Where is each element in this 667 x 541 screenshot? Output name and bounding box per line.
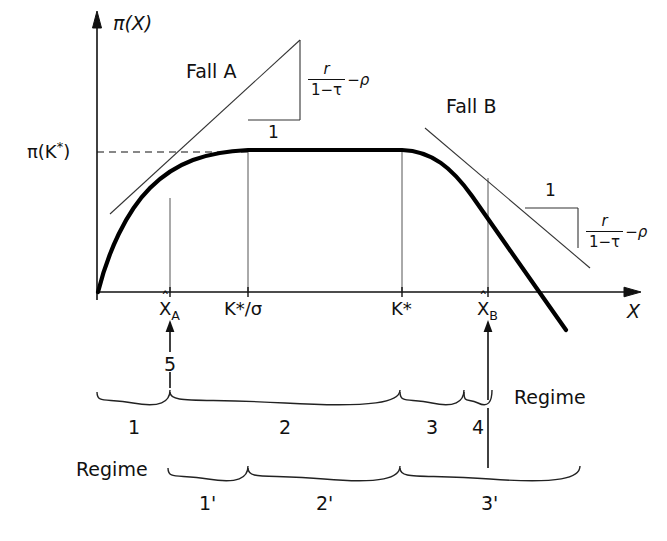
tick-label-x-hat-b: ˆXB: [477, 300, 498, 322]
lower-regime-title: Regime: [76, 460, 148, 479]
tick-label-x-hat-b-sub: B: [489, 308, 498, 323]
lower-regime-label-2-prime: 2': [316, 494, 333, 513]
tick-label-k-star-sigma: K*/σ: [224, 300, 262, 318]
tick-label-x-hat-a-glyph: ˆX: [159, 300, 171, 318]
brace-regime-3-prime: [400, 466, 580, 481]
slope-left-expression: r 1−τ −ρ: [308, 60, 369, 99]
hat-accent-icon: ˆ: [161, 291, 170, 308]
tick-label-x-hat-b-glyph: ˆX: [477, 300, 489, 318]
brace-regime-2: [170, 390, 400, 405]
lower-regime-braces: [168, 466, 580, 481]
slope-right-fraction: r 1−τ: [586, 212, 623, 251]
axes-group: [93, 11, 642, 300]
case-label-fall-a: Fall A: [186, 62, 236, 81]
slope-left-numerator: r: [308, 60, 345, 79]
upper-regime-label-3: 3: [426, 418, 438, 437]
slope-triangle-right: [525, 208, 578, 248]
upper-regime-label-2: 2: [279, 418, 291, 437]
x-axis-arrowhead: [624, 287, 641, 297]
slope-right-expression: r 1−τ −ρ: [586, 212, 647, 251]
upper-regime-braces: [97, 390, 492, 405]
lower-regime-label-1-prime: 1': [199, 494, 216, 513]
slope-left-run-label: 1: [268, 124, 279, 141]
slope-left-denominator: 1−τ: [308, 79, 345, 99]
tick-drop-lines: [170, 148, 488, 292]
brace-regime-2-prime: [248, 466, 400, 481]
profit-level-label: π(K*): [27, 141, 70, 161]
upper-regime-label-4: 4: [472, 418, 484, 437]
tick-label-x-hat-a: ˆXA: [159, 300, 180, 322]
profit-level-label-base: π(K: [27, 141, 57, 162]
profit-curve-figure: π(X) X π(K*) Fall A Fall B 1 r 1−τ −ρ 1 …: [0, 0, 667, 541]
slope-left-fraction: r 1−τ: [308, 60, 345, 99]
hat-accent-icon: ˆ: [479, 291, 488, 308]
slope-right-rise-label: 1: [545, 182, 556, 199]
y-axis-label: π(X): [113, 14, 152, 33]
y-axis-arrowhead: [93, 11, 102, 28]
slope-right-denominator: 1−τ: [586, 231, 623, 251]
brace-regime-1-prime: [168, 466, 248, 481]
brace-regime-1: [97, 390, 170, 405]
regime-pointer-arrows: [166, 320, 493, 468]
upper-regime-label-1: 1: [128, 418, 140, 437]
brace-regime-3: [400, 390, 464, 405]
slope-right-numerator: r: [586, 212, 623, 231]
x-axis-label: X: [627, 302, 640, 321]
slope-left-tail: −ρ: [345, 71, 369, 89]
profit-level-label-close: ): [63, 141, 70, 162]
upper-regime-title: Regime: [514, 388, 586, 407]
annotation-five: 5: [164, 355, 176, 374]
slope-right-tail: −ρ: [623, 223, 647, 241]
case-label-fall-b: Fall B: [446, 97, 496, 116]
tick-label-x-hat-a-sub: A: [171, 308, 180, 323]
tick-label-k-star: K*: [391, 300, 412, 318]
lower-regime-label-3-prime: 3': [481, 494, 498, 513]
